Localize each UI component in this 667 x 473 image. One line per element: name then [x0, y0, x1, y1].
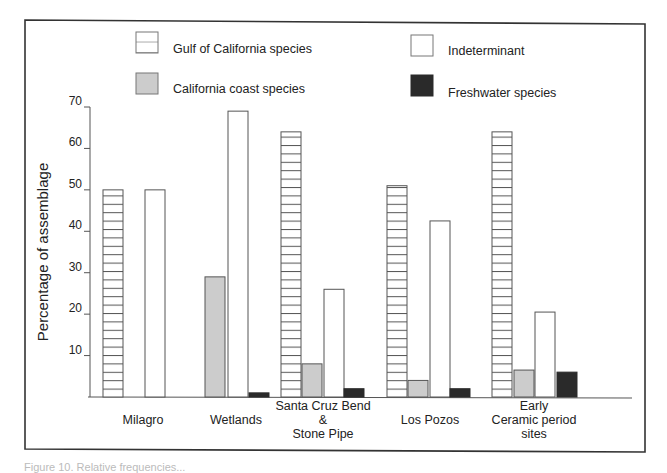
- bar-freshwater-species-3: [450, 389, 470, 397]
- x-category-label-line: &: [319, 413, 328, 427]
- bar-freshwater-species-1: [249, 393, 269, 397]
- y-axis-label: Percentage of assemblage: [34, 163, 51, 341]
- bar-california-coast-species-4: [514, 370, 534, 397]
- x-category-label-line: Early: [520, 399, 549, 413]
- x-category-label: Santa Cruz Bend&Stone Pipe: [275, 399, 370, 441]
- x-category-label: EarlyCeramic periodsites: [492, 399, 577, 441]
- bar-california-coast-species-2: [302, 364, 322, 397]
- bar-indeterminant-2: [324, 289, 344, 397]
- y-tick-label: 20: [69, 301, 83, 315]
- x-category-label-line: Stone Pipe: [292, 427, 353, 441]
- bar-california-coast-species-1: [205, 277, 225, 397]
- legend: Gulf of California speciesIndeterminantC…: [136, 32, 556, 100]
- legend-label: Freshwater species: [448, 86, 556, 100]
- bar-indeterminant-4: [535, 312, 555, 397]
- legend-item: Gulf of California species: [136, 32, 312, 56]
- bar-indeterminant-3: [430, 221, 450, 397]
- bar-gulf-of-california-species-0: [103, 190, 123, 397]
- bar-freshwater-species-2: [344, 389, 364, 397]
- legend-label: Indeterminant: [448, 44, 525, 58]
- y-tick-label: 50: [69, 177, 83, 191]
- x-category-label: Wetlands: [210, 413, 262, 427]
- bar-gulf-of-california-species-4: [492, 132, 512, 397]
- y-tick-label: 60: [69, 135, 83, 149]
- chart: Gulf of California speciesIndeterminantC…: [0, 0, 667, 473]
- x-category-label-line: Milagro: [123, 413, 164, 427]
- legend-swatch: [411, 75, 433, 96]
- legend-swatch: [411, 35, 433, 56]
- x-category-label-line: Los Pozos: [401, 413, 459, 427]
- legend-label: Gulf of California species: [173, 42, 312, 56]
- bar-gulf-of-california-species-3: [387, 186, 407, 397]
- legend-swatch: [136, 73, 158, 94]
- legend-label: California coast species: [173, 82, 305, 96]
- legend-item: Indeterminant: [411, 35, 525, 58]
- y-tick-label: 30: [69, 260, 83, 274]
- bar-gulf-of-california-species-2: [281, 132, 301, 397]
- legend-item: Freshwater species: [411, 75, 556, 100]
- y-tick-label: 10: [69, 343, 83, 357]
- x-category-label-line: Santa Cruz Bend: [275, 399, 370, 413]
- y-tick-label: 40: [69, 218, 83, 232]
- bar-indeterminant-0: [145, 190, 165, 397]
- bars: [103, 111, 577, 397]
- bar-indeterminant-1: [228, 111, 248, 397]
- y-tick-label: 70: [69, 94, 83, 108]
- x-category-label: Milagro: [123, 413, 164, 427]
- figure-caption: Figure 10. Relative frequencies...: [24, 461, 185, 473]
- x-category-label-line: Wetlands: [210, 413, 262, 427]
- bar-california-coast-species-3: [408, 380, 428, 397]
- legend-swatch: [136, 32, 158, 53]
- legend-item: California coast species: [136, 73, 305, 96]
- x-category-label-line: Ceramic period: [492, 413, 577, 427]
- bar-freshwater-species-4: [557, 372, 577, 397]
- x-category-label-line: sites: [521, 427, 547, 441]
- x-axis-labels: MilagroWetlandsSanta Cruz Bend&Stone Pip…: [123, 399, 577, 441]
- x-category-label: Los Pozos: [401, 413, 459, 427]
